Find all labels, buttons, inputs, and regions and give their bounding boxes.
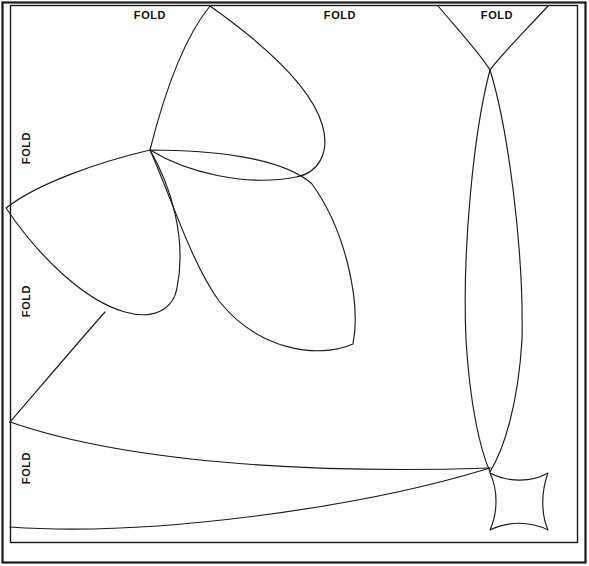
inner-frame [11,6,578,543]
pattern-page: FOLD FOLD FOLD FOLD FOLD FOLD [0,0,589,566]
fold-label-top-3: FOLD [481,10,513,21]
fold-label-left-1: FOLD [21,132,32,164]
fold-label-top-2: FOLD [324,10,356,21]
fold-label-left-2: FOLD [21,285,32,317]
pattern-drawing [0,0,589,566]
fold-label-top-1: FOLD [134,10,166,21]
fold-label-left-3: FOLD [21,452,32,484]
